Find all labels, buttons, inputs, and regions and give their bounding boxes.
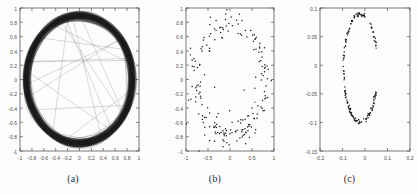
y-tick-label: -0.6 bbox=[8, 120, 17, 126]
y-tick-label: -0.2 bbox=[8, 91, 17, 97]
x-tick-label: 0.8 bbox=[124, 155, 131, 161]
y-tick-label: -0.8 bbox=[8, 134, 17, 140]
y-tick-label: 0.8 bbox=[176, 20, 183, 26]
x-tick-label: 0 bbox=[229, 155, 232, 161]
ellipse-points bbox=[342, 12, 376, 124]
y-tick-label: 0 bbox=[180, 77, 183, 83]
y-tick-label: -0.05 bbox=[306, 91, 318, 97]
y-tick-label: 0.6 bbox=[10, 34, 17, 40]
plot-a: -1-0.8-0.6-0.4-0.200.20.40.60.8110.80.60… bbox=[0, 0, 146, 170]
x-tick-label: 0 bbox=[78, 155, 81, 161]
x-tick-label: 0.2 bbox=[407, 155, 414, 161]
panel-b: -1-0.500.5110.80.60.40.20-0.2-0.4-0.6-0.… bbox=[150, 0, 280, 195]
x-tick-label: -0.4 bbox=[51, 155, 60, 161]
y-tick-label: -1 bbox=[13, 149, 18, 155]
x-tick-label: 0.4 bbox=[100, 155, 107, 161]
plot-frame bbox=[320, 8, 410, 151]
x-tick-label: -0.5 bbox=[204, 155, 213, 161]
x-tick-label: 0.6 bbox=[112, 155, 119, 161]
x-tick-label: -1 bbox=[18, 155, 23, 161]
plot-b: -1-0.500.5110.80.60.40.20-0.2-0.4-0.6-0.… bbox=[150, 0, 280, 170]
y-tick-label: -1 bbox=[179, 149, 184, 155]
y-tick-label: 0.1 bbox=[310, 6, 317, 12]
caption-b: (b) bbox=[150, 173, 280, 184]
y-tick-label: 0 bbox=[314, 63, 317, 69]
y-tick-label: 0 bbox=[14, 77, 17, 83]
y-tick-label: 0.05 bbox=[307, 34, 317, 40]
x-tick-label: -1 bbox=[184, 155, 189, 161]
x-tick-label: 0.5 bbox=[249, 155, 256, 161]
panel-c: -0.2-0.100.10.20.10.050-0.05-0.1-0.15 bbox=[282, 0, 417, 195]
y-tick-label: -0.2 bbox=[174, 91, 183, 97]
y-tick-label: 0.4 bbox=[10, 49, 17, 55]
plot-frame bbox=[20, 8, 139, 151]
caption-c: (c) bbox=[282, 173, 417, 184]
y-tick-label: 1 bbox=[14, 6, 17, 12]
y-tick-label: 0.4 bbox=[176, 49, 183, 55]
y-tick-label: -0.6 bbox=[174, 120, 183, 126]
y-tick-label: -0.4 bbox=[174, 106, 183, 112]
y-tick-label: -0.1 bbox=[308, 120, 317, 126]
panel-a: -1-0.8-0.6-0.4-0.200.20.40.60.8110.80.60… bbox=[0, 0, 146, 195]
x-tick-label: 1 bbox=[273, 155, 276, 161]
y-tick-label: 0.6 bbox=[176, 34, 183, 40]
x-tick-label: -0.2 bbox=[316, 155, 325, 161]
x-tick-label: 1 bbox=[138, 155, 141, 161]
y-tick-label: 0.8 bbox=[10, 20, 17, 26]
caption-a: (a) bbox=[0, 173, 146, 184]
x-tick-label: 0.2 bbox=[88, 155, 95, 161]
x-tick-label: -0.2 bbox=[63, 155, 72, 161]
x-tick-label: 0.1 bbox=[384, 155, 391, 161]
y-tick-label: 0.2 bbox=[176, 63, 183, 69]
x-tick-label: -0.6 bbox=[39, 155, 48, 161]
x-tick-label: 0 bbox=[364, 155, 367, 161]
x-tick-label: -0.8 bbox=[28, 155, 37, 161]
figure-root: -1-0.8-0.6-0.4-0.200.20.40.60.8110.80.60… bbox=[0, 0, 417, 195]
y-tick-label: 1 bbox=[180, 6, 183, 12]
y-tick-label: -0.8 bbox=[174, 134, 183, 140]
y-tick-label: -0.15 bbox=[306, 149, 318, 155]
plot-c: -0.2-0.100.10.20.10.050-0.05-0.1-0.15 bbox=[282, 0, 417, 170]
y-tick-label: -0.4 bbox=[8, 106, 17, 112]
trajectory-bundle bbox=[22, 11, 136, 148]
scatter-points bbox=[186, 9, 272, 152]
x-tick-label: -0.1 bbox=[338, 155, 347, 161]
y-tick-label: 0.2 bbox=[10, 63, 17, 69]
